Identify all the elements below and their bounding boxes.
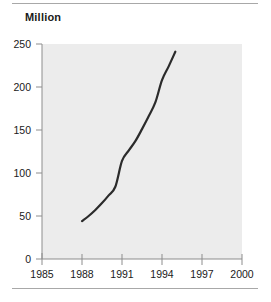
y-tick-label: 150 <box>13 124 31 136</box>
x-tick-label: 1988 <box>70 268 94 280</box>
y-tick-label: 0 <box>25 253 31 265</box>
y-axis-tick-labels: 050100150200250 <box>13 38 31 265</box>
x-tick-label: 2000 <box>230 268 254 280</box>
y-tick-label: 250 <box>13 38 31 50</box>
chart-figure: Million 050100150200250 1985198819911994… <box>0 0 271 302</box>
line-chart-plot: 050100150200250 198519881991199419972000 <box>0 0 271 302</box>
y-tick-label: 200 <box>13 81 31 93</box>
x-tick-label: 1991 <box>110 268 134 280</box>
x-axis-tick-labels: 198519881991199419972000 <box>30 268 254 280</box>
y-tick-label: 100 <box>13 167 31 179</box>
y-axis-ticks <box>36 44 42 259</box>
x-tick-label: 1985 <box>30 268 54 280</box>
y-tick-label: 50 <box>19 210 31 222</box>
plot-area-background <box>42 44 242 259</box>
x-tick-label: 1994 <box>150 268 174 280</box>
bottom-divider-rule <box>12 288 258 289</box>
x-tick-label: 1997 <box>190 268 214 280</box>
